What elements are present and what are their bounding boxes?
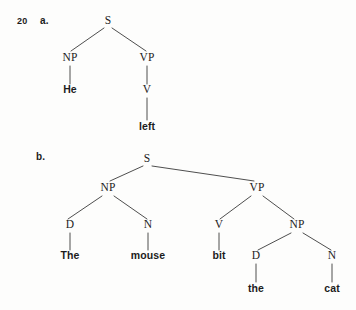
branch-a-s-to-a-vp bbox=[112, 28, 146, 51]
branch-a-s-to-a-np bbox=[71, 28, 104, 51]
node-label-b-v: V bbox=[215, 218, 224, 230]
node-label-a-s: S bbox=[105, 14, 112, 26]
branch-b-np1-to-b-n1 bbox=[114, 196, 147, 219]
node-label-b-np1: NP bbox=[100, 181, 115, 193]
terminal-word-b-bit: bit bbox=[212, 249, 226, 261]
node-label-b-n1: N bbox=[144, 218, 153, 230]
branch-b-vp-to-b-v bbox=[220, 196, 251, 219]
tree-nodes: SNPVPHeVleftSNPVPDNVNPThemousebitDNtheca… bbox=[61, 14, 341, 294]
branch-b-np2-to-b-d2 bbox=[258, 233, 291, 250]
branch-b-np1-to-b-d1 bbox=[68, 196, 102, 219]
exercise-number: 20 bbox=[17, 16, 28, 26]
tree-branches bbox=[68, 28, 332, 282]
node-label-b-s: S bbox=[144, 152, 151, 164]
terminal-word-b-mouse: mouse bbox=[131, 249, 165, 261]
node-label-a-v: V bbox=[143, 83, 152, 95]
terminal-word-b-cat: cat bbox=[324, 282, 340, 294]
terminal-word-a-left: left bbox=[139, 120, 156, 132]
node-label-a-vp: VP bbox=[139, 51, 154, 63]
exercise-labels: 20a.b. bbox=[17, 15, 49, 162]
terminal-word-b-the2: the bbox=[248, 282, 264, 294]
node-label-b-np2: NP bbox=[289, 218, 304, 230]
item-letter-b: b. bbox=[36, 151, 45, 162]
syntax-tree-figure: 20a.b. SNPVPHeVleftSNPVPDNVNPThemousebit… bbox=[0, 0, 356, 310]
page-canvas: 20a.b. SNPVPHeVleftSNPVPDNVNPThemousebit… bbox=[0, 0, 356, 310]
branch-b-s-to-b-np1 bbox=[110, 166, 143, 181]
terminal-word-b-the1: The bbox=[61, 249, 80, 261]
node-label-b-d1: D bbox=[66, 218, 75, 230]
node-label-b-d2: D bbox=[252, 249, 261, 261]
terminal-word-a-he: He bbox=[63, 83, 77, 95]
node-label-b-vp: VP bbox=[249, 181, 264, 193]
branch-b-vp-to-b-np2 bbox=[263, 196, 294, 219]
node-label-a-np: NP bbox=[62, 51, 77, 63]
node-label-b-n2: N bbox=[328, 249, 337, 261]
item-letter-a: a. bbox=[40, 15, 49, 26]
branch-b-s-to-b-vp bbox=[152, 166, 254, 181]
branch-b-np2-to-b-n2 bbox=[303, 233, 331, 250]
